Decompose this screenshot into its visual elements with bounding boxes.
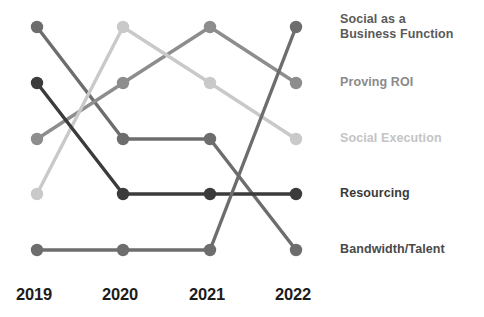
data-point[interactable] (290, 77, 302, 89)
data-point[interactable] (31, 77, 43, 89)
data-point[interactable] (117, 188, 129, 200)
data-point[interactable] (290, 21, 302, 33)
data-point[interactable] (204, 244, 216, 256)
data-point[interactable] (117, 244, 129, 256)
data-point[interactable] (204, 133, 216, 145)
series-label-4: Resourcing (340, 186, 410, 201)
series-line (37, 27, 296, 250)
x-axis-label-2022: 2022 (275, 285, 311, 304)
x-axis-label-2020: 2020 (102, 285, 138, 304)
series-label-2: Proving ROI (340, 75, 413, 90)
series-lines-group (37, 27, 296, 250)
data-point[interactable] (31, 133, 43, 145)
data-point[interactable] (204, 21, 216, 33)
series-line (37, 27, 296, 194)
data-point[interactable] (204, 188, 216, 200)
bump-chart: Bandwidth/TalentProving ROISocial Execut… (0, 0, 484, 317)
series-label-1: Bandwidth/Talent (340, 242, 445, 257)
x-axis-label-2021: 2021 (189, 285, 225, 304)
data-point[interactable] (117, 133, 129, 145)
data-point[interactable] (290, 244, 302, 256)
chart-plot-area (0, 0, 484, 317)
data-point[interactable] (290, 133, 302, 145)
data-point[interactable] (204, 77, 216, 89)
data-point[interactable] (117, 21, 129, 33)
x-axis-label-2019: 2019 (16, 285, 52, 304)
data-point[interactable] (31, 21, 43, 33)
data-point[interactable] (31, 188, 43, 200)
data-point[interactable] (117, 77, 129, 89)
data-point[interactable] (290, 188, 302, 200)
data-point[interactable] (31, 244, 43, 256)
series-label-3: Social Execution (340, 131, 442, 146)
series-label-5: Social as a Business Function (340, 12, 454, 42)
